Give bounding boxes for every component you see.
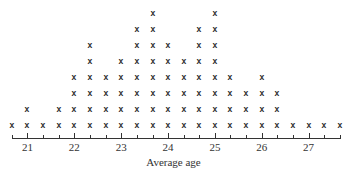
minor-tick [153, 135, 154, 139]
minor-tick [59, 135, 60, 139]
x-marker: x [23, 105, 33, 114]
x-tick-label: 25 [200, 141, 230, 153]
x-marker: x [70, 105, 80, 114]
x-marker: x [195, 89, 205, 98]
x-tick-label: 26 [247, 141, 277, 153]
x-marker: x [116, 73, 126, 82]
minor-tick [137, 135, 138, 139]
x-marker: x [70, 73, 80, 82]
x-axis-line [12, 138, 340, 139]
minor-tick [106, 135, 107, 139]
x-marker: x [38, 121, 48, 130]
x-marker: x [7, 121, 17, 130]
x-marker: x [85, 89, 95, 98]
x-marker: x [304, 121, 314, 130]
x-marker: x [163, 41, 173, 50]
x-marker: x [195, 105, 205, 114]
x-marker: x [210, 105, 220, 114]
x-marker: x [242, 121, 252, 130]
x-tick-label: 23 [106, 141, 136, 153]
x-marker: x [195, 57, 205, 66]
x-marker: x [101, 89, 111, 98]
x-marker: x [132, 89, 142, 98]
minor-tick [340, 135, 341, 139]
x-marker: x [101, 105, 111, 114]
major-tick [309, 133, 310, 139]
x-marker: x [210, 41, 220, 50]
x-marker: x [54, 105, 64, 114]
x-marker: x [132, 73, 142, 82]
x-marker: x [163, 105, 173, 114]
x-marker: x [101, 73, 111, 82]
x-marker: x [179, 73, 189, 82]
x-marker: x [85, 105, 95, 114]
x-marker: x [226, 121, 236, 130]
x-marker: x [272, 105, 282, 114]
x-marker: x [132, 41, 142, 50]
x-marker: x [70, 89, 80, 98]
x-marker: x [257, 105, 267, 114]
x-marker: x [148, 121, 158, 130]
dot-plot: xxxxxxxxxxxxxxxxxxxxxxxxxxxxxxxxxxxxxxxx… [0, 0, 347, 171]
x-marker: x [132, 105, 142, 114]
x-marker: x [132, 25, 142, 34]
x-marker: x [195, 121, 205, 130]
minor-tick [293, 135, 294, 139]
x-marker: x [116, 121, 126, 130]
major-tick [262, 133, 263, 139]
x-marker: x [179, 121, 189, 130]
x-marker: x [242, 105, 252, 114]
minor-tick [12, 135, 13, 139]
x-marker: x [148, 89, 158, 98]
x-marker: x [257, 121, 267, 130]
minor-tick [246, 135, 247, 139]
x-marker: x [195, 41, 205, 50]
major-tick [215, 133, 216, 139]
x-marker: x [101, 121, 111, 130]
x-marker: x [272, 89, 282, 98]
x-marker: x [148, 57, 158, 66]
x-marker: x [210, 89, 220, 98]
x-marker: x [226, 73, 236, 82]
x-tick-label: 24 [153, 141, 183, 153]
major-tick [27, 133, 28, 139]
x-marker: x [85, 41, 95, 50]
x-marker: x [85, 73, 95, 82]
x-tick-label: 27 [294, 141, 324, 153]
x-marker: x [257, 89, 267, 98]
minor-tick [43, 135, 44, 139]
x-marker: x [148, 9, 158, 18]
major-tick [168, 133, 169, 139]
x-marker: x [148, 41, 158, 50]
x-marker: x [335, 121, 345, 130]
x-marker: x [179, 105, 189, 114]
x-marker: x [85, 57, 95, 66]
x-marker: x [148, 25, 158, 34]
x-marker: x [163, 121, 173, 130]
minor-tick [324, 135, 325, 139]
x-marker: x [85, 121, 95, 130]
x-marker: x [116, 57, 126, 66]
minor-tick [199, 135, 200, 139]
x-marker: x [242, 89, 252, 98]
x-marker: x [132, 121, 142, 130]
x-marker: x [148, 73, 158, 82]
x-marker: x [319, 121, 329, 130]
x-tick-label: 21 [12, 141, 42, 153]
x-marker: x [116, 105, 126, 114]
x-marker: x [195, 73, 205, 82]
x-axis-label: Average age [0, 156, 347, 168]
x-tick-label: 22 [59, 141, 89, 153]
x-marker: x [226, 89, 236, 98]
x-marker: x [272, 121, 282, 130]
x-marker: x [70, 121, 80, 130]
x-marker: x [195, 25, 205, 34]
x-marker: x [226, 105, 236, 114]
x-marker: x [288, 121, 298, 130]
x-marker: x [163, 57, 173, 66]
x-marker: x [132, 57, 142, 66]
major-tick [121, 133, 122, 139]
x-marker: x [257, 73, 267, 82]
x-marker: x [23, 121, 33, 130]
minor-tick [184, 135, 185, 139]
